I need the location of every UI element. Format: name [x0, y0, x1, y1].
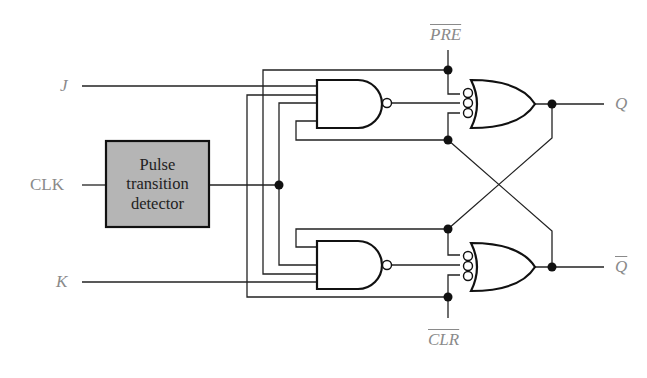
lower-nand-gate	[317, 241, 392, 289]
output-q-bar-label: Q	[615, 258, 627, 275]
block-line-1: Pulse	[140, 155, 176, 174]
input-pre-label: PRE	[430, 26, 461, 43]
input-clr-label: CLR	[428, 331, 459, 348]
input-j-label: J	[60, 77, 68, 94]
output-q-label: Q	[615, 95, 627, 112]
lower-or-gate	[464, 243, 536, 291]
input-clk-label: CLK	[30, 176, 64, 193]
block-line-2: transition	[126, 174, 188, 193]
circuit-wiring	[0, 0, 647, 378]
upper-or-gate	[464, 80, 536, 128]
block-line-3: detector	[131, 194, 184, 213]
jk-flip-flop-diagram: Pulse transition detector J CLK K PRE CL…	[0, 0, 647, 378]
pulse-transition-detector-label: Pulse transition detector	[106, 141, 209, 227]
upper-nand-gate	[317, 80, 392, 128]
input-k-label: K	[56, 273, 67, 290]
